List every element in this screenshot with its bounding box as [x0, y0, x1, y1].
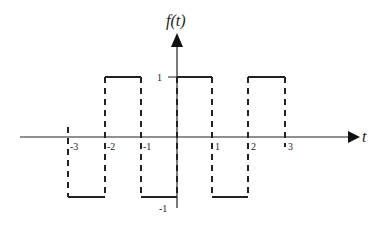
y-axis-arrow-icon	[171, 33, 183, 47]
y-tick-label: 1	[157, 72, 162, 83]
x-tick-label: -2	[107, 141, 115, 152]
y-tick-label: -1	[159, 203, 167, 214]
x-tick-label: -3	[70, 141, 78, 152]
diagram-svg: -3 -2 -1 1 2 3 1 -1 f(t) t	[0, 0, 380, 225]
square-wave-diagram: -3 -2 -1 1 2 3 1 -1 f(t) t	[0, 0, 380, 225]
x-tick-label: 1	[215, 141, 220, 152]
x-axis-arrow-icon	[348, 131, 360, 143]
x-tick-label: 2	[251, 141, 256, 152]
x-tick-label: 3	[288, 141, 293, 152]
x-axis-label: t	[362, 128, 367, 145]
y-axis-label: f(t)	[166, 12, 186, 30]
x-tick-label: -1	[143, 141, 151, 152]
